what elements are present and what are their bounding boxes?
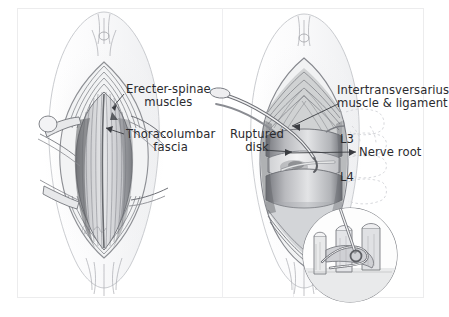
inset-contents [303, 208, 397, 302]
label-l4: L4 [340, 171, 354, 184]
label-l3: L3 [340, 133, 354, 146]
label-nerve-root: Nerve root [359, 146, 422, 159]
label-thoracolumbar-fascia: Thoracolumbar fascia [126, 128, 215, 154]
label-intertransversarius: Intertransversarius muscle & ligament [337, 84, 449, 110]
label-thoracolumbar-fascia-line2: fascia [126, 141, 215, 154]
left-panel [0, 0, 222, 317]
inset-detail [303, 208, 397, 302]
label-ruptured-disk: Ruptured disk [228, 128, 286, 154]
label-erecter-spinae-line2: muscles [126, 96, 211, 109]
left-panel-drawing [0, 0, 222, 317]
label-erecter-spinae: Erecter-spinae muscles [126, 83, 211, 109]
label-intertransversarius-line2: muscle & ligament [337, 97, 449, 110]
label-ruptured-disk-line2: disk [228, 141, 286, 154]
